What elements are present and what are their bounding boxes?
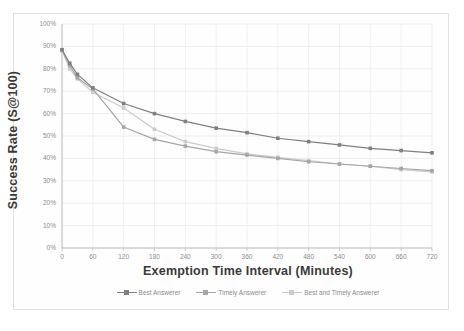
data-point-marker — [245, 131, 249, 135]
y-tick-label: 10% — [26, 222, 56, 229]
legend-label: Best and Timely Answerer — [304, 289, 379, 296]
x-tick-label: 660 — [386, 253, 416, 260]
data-point-marker — [430, 169, 434, 173]
x-tick-label: 180 — [140, 253, 170, 260]
data-point-marker — [153, 112, 157, 116]
x-tick-label: 0 — [47, 253, 77, 260]
x-tick-label: 360 — [232, 253, 262, 260]
data-point-marker — [91, 86, 95, 90]
legend-marker-icon — [196, 288, 216, 296]
data-point-marker — [369, 164, 373, 168]
chart-figure: Success Rate (S@100) Exemption Time Inte… — [0, 0, 464, 331]
chart-canvas — [0, 0, 464, 331]
data-point-marker — [276, 157, 280, 161]
y-tick-label: 50% — [26, 132, 56, 139]
legend-item[interactable]: Timely Answerer — [196, 288, 266, 296]
data-point-marker — [153, 127, 157, 131]
legend-marker-icon — [117, 288, 137, 296]
y-tick-label: 40% — [26, 154, 56, 161]
y-tick-label: 100% — [26, 20, 56, 27]
x-tick-label: 480 — [294, 253, 324, 260]
x-tick-label: 540 — [325, 253, 355, 260]
data-point-marker — [276, 136, 280, 140]
x-tick-label: 60 — [78, 253, 108, 260]
data-point-marker — [184, 120, 188, 124]
data-point-marker — [307, 140, 311, 144]
data-point-marker — [214, 150, 218, 154]
y-tick-label: 70% — [26, 87, 56, 94]
data-point-marker — [184, 140, 188, 144]
x-tick-label: 720 — [417, 253, 447, 260]
data-point-marker — [76, 76, 80, 80]
legend-label: Timely Answerer — [218, 289, 266, 296]
legend-marker-icon — [282, 288, 302, 296]
data-point-marker — [76, 73, 80, 77]
data-point-marker — [338, 162, 342, 166]
y-tick-label: 90% — [26, 42, 56, 49]
data-point-marker — [184, 144, 188, 148]
data-point-marker — [369, 147, 373, 151]
x-tick-label: 120 — [109, 253, 139, 260]
data-point-marker — [245, 153, 249, 157]
data-point-marker — [122, 102, 126, 106]
y-tick-label: 20% — [26, 199, 56, 206]
data-point-marker — [60, 48, 64, 52]
data-point-marker — [399, 167, 403, 171]
data-point-marker — [122, 106, 126, 110]
data-point-marker — [68, 61, 72, 65]
legend-item[interactable]: Best and Timely Answerer — [282, 288, 379, 296]
y-tick-label: 0% — [26, 244, 56, 251]
data-point-marker — [214, 147, 218, 151]
x-tick-label: 420 — [263, 253, 293, 260]
y-tick-label: 60% — [26, 110, 56, 117]
data-point-marker — [122, 125, 126, 129]
data-point-marker — [214, 126, 218, 130]
legend-item[interactable]: Best Answerer — [117, 288, 181, 296]
data-point-marker — [430, 151, 434, 155]
legend-label: Best Answerer — [139, 289, 181, 296]
y-tick-label: 80% — [26, 65, 56, 72]
data-point-marker — [399, 149, 403, 153]
x-tick-label: 600 — [355, 253, 385, 260]
y-tick-label: 30% — [26, 177, 56, 184]
chart-legend: Best AnswererTimely AnswererBest and Tim… — [62, 288, 434, 296]
x-tick-label: 300 — [201, 253, 231, 260]
data-point-marker — [307, 160, 311, 164]
x-tick-label: 240 — [170, 253, 200, 260]
gridlines — [62, 24, 432, 248]
data-point-marker — [338, 143, 342, 147]
data-point-marker — [153, 138, 157, 142]
